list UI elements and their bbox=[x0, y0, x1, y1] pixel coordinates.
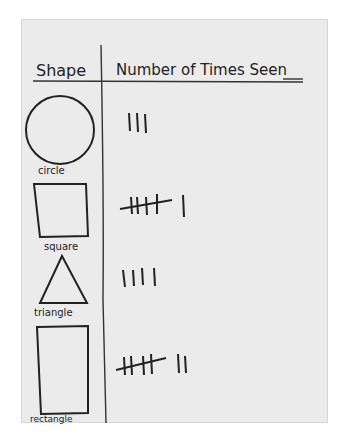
tally-triangle bbox=[123, 268, 155, 287]
row-rectangle: rectangle bbox=[30, 326, 186, 424]
tally-chart: Shape Number of Times Seen circle square… bbox=[0, 0, 345, 443]
header-rule bbox=[33, 81, 303, 82]
square-shape-icon bbox=[34, 184, 88, 237]
tally-square bbox=[120, 194, 184, 217]
label-circle: circle bbox=[38, 165, 65, 176]
rectangle-shape-icon bbox=[37, 326, 88, 414]
label-square: square bbox=[44, 241, 78, 252]
tally-rectangle bbox=[116, 354, 186, 375]
row-triangle: triangle bbox=[34, 256, 155, 318]
row-circle: circle bbox=[26, 96, 146, 176]
row-square: square bbox=[34, 184, 184, 252]
column-divider bbox=[101, 45, 106, 423]
label-rectangle: rectangle bbox=[30, 414, 73, 424]
triangle-shape-icon bbox=[40, 256, 87, 303]
circle-shape-icon bbox=[26, 96, 94, 164]
tally-circle bbox=[129, 113, 146, 133]
label-triangle: triangle bbox=[34, 307, 73, 318]
header-shape: Shape bbox=[36, 61, 86, 80]
header-count: Number of Times Seen bbox=[116, 61, 287, 79]
